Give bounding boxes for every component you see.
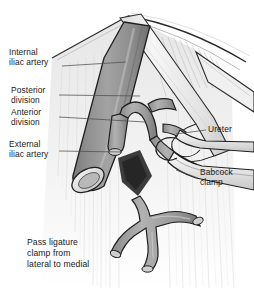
label-babcock-clamp: Babcock clamp (200, 167, 233, 188)
label-external-iliac-artery: External iliac artery (9, 139, 48, 160)
label-ureter: Ureter (208, 124, 232, 134)
label-posterior-division: Posterior division (11, 85, 45, 106)
surgical-illustration-figure: Internal iliac artery Posterior division… (0, 0, 254, 291)
figure-caption: Pass ligature clamp from lateral to medi… (27, 237, 89, 270)
label-internal-iliac-artery: Internal iliac artery (9, 47, 48, 68)
lower-branch-cut-end-left (142, 266, 153, 272)
label-anterior-division: Anterior division (11, 107, 41, 128)
